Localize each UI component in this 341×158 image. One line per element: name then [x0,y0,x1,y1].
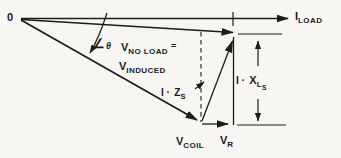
i-zs-label: I · ZS [161,83,185,99]
v-no-load-phasor-arrow [21,20,233,33]
i-zs-prefix: I · [161,87,170,98]
i-zs-label-pointer-arrow [195,82,204,89]
v-no-load-label: VNO LOAD= [121,38,176,54]
i-xls-label: I · XLS [236,71,266,87]
i-load-sub: LOAD [298,16,322,25]
i-zs-drop-arrow [202,41,233,121]
phasor-diagram-canvas [0,0,341,158]
origin-label: 0 [7,12,13,23]
v-r-sub: R [227,140,233,149]
i-xls-main: X [249,74,256,86]
v-induced-sub: INDUCED [126,66,165,75]
i-xls-subsub: S [262,84,266,91]
v-no-load-sub: NO LOAD [128,47,168,56]
v-r-label: VR [220,131,234,147]
i-xls-prefix: I · [236,75,245,86]
angle-label: ∠θ [93,35,111,51]
v-coil-label: VCOIL [176,132,204,148]
i-zs-sub: S [180,92,185,101]
v-induced-label: VINDUCED [119,57,166,73]
v-coil-sub: COIL [183,141,204,150]
angle-value: θ [106,41,111,51]
angle-symbol: ∠ [93,36,105,51]
phasor-diagram: 0 ILOAD ∠θ VNO LOAD= VINDUCED I · ZS VCO… [0,0,341,158]
v-no-load-equals: = [171,41,176,51]
i-load-label: ILOAD [295,7,322,23]
